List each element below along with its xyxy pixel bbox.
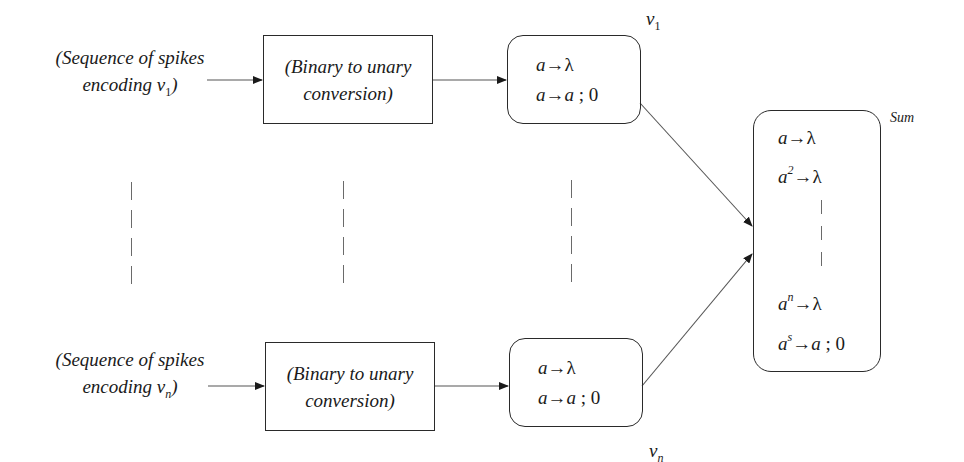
dashed-continuation-neurons	[571, 180, 573, 292]
input-label-line2: encoding v1)	[30, 71, 230, 106]
converter-box-n: (Binary to unary conversion)	[265, 342, 435, 431]
rule: a→λ	[778, 123, 880, 153]
rule: as→a ; 0	[778, 324, 880, 359]
rule: a2→λ	[778, 157, 880, 192]
rule: a→a ; 0	[538, 383, 642, 413]
neuron-v1-label: v1	[646, 8, 660, 34]
dashed-continuation-converters	[343, 181, 345, 293]
input-label-line1: (Sequence of spikes	[30, 346, 230, 373]
input-label-line1: (Sequence of spikes	[30, 44, 230, 71]
neuron-vn: a→λ a→a ; 0	[509, 338, 643, 427]
rule: an→λ	[778, 284, 880, 319]
neuron-v1: a→λ a→a ; 0	[507, 35, 641, 124]
arrow-vn-to-sum	[642, 254, 752, 386]
rule: a→a ; 0	[536, 80, 640, 110]
converter-box-1: (Binary to unary conversion)	[263, 35, 433, 124]
neuron-sum-label: Sum	[890, 110, 914, 126]
rule: a→λ	[536, 50, 640, 80]
neuron-vn-label: vn	[649, 440, 663, 462]
neuron-sum: a→λ a2→λ an→λ as→a ; 0	[753, 110, 881, 372]
input-label-line2: encoding vn)	[30, 373, 230, 408]
arrow-v1-to-sum	[640, 103, 752, 226]
input-label-vn: (Sequence of spikes encoding vn)	[30, 346, 230, 408]
rule: a→λ	[538, 353, 642, 383]
input-label-v1: (Sequence of spikes encoding v1)	[30, 44, 230, 106]
dashed-continuation-inputs	[131, 182, 133, 294]
dashed-continuation-sum-rules	[821, 200, 823, 280]
